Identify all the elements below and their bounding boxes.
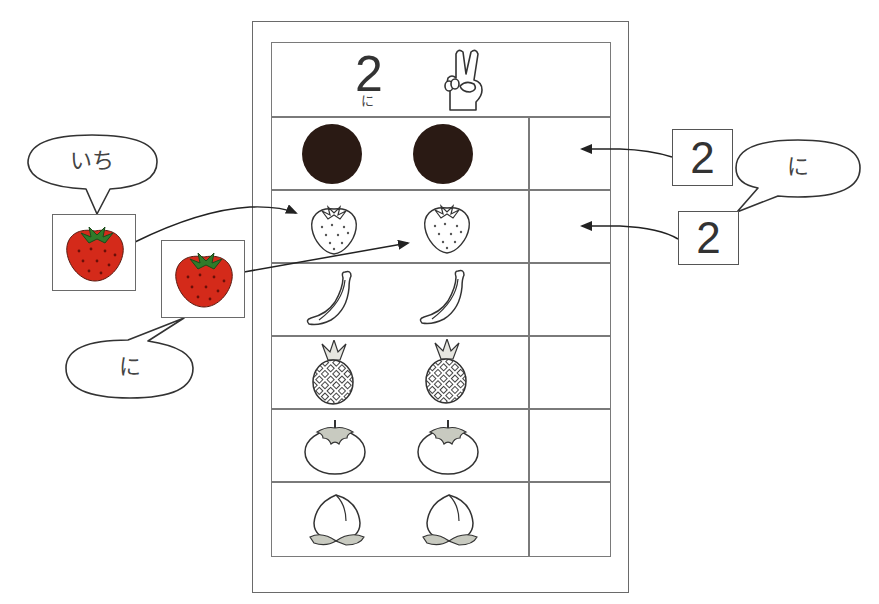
strawberry-icon (162, 241, 246, 319)
arrow-number-2 (582, 226, 678, 239)
number-card-2[interactable]: 2 (678, 211, 739, 265)
bubble-text-ni-left: に (100, 356, 160, 378)
speech-bubble-ichi (28, 135, 157, 214)
strawberry-card-1[interactable] (52, 214, 136, 291)
arrow-strawberry-1 (135, 207, 296, 242)
bubble-text-ichi: いち (62, 150, 122, 172)
strawberry-icon (53, 215, 137, 292)
annotation-lines (0, 0, 879, 604)
bubble-text-ni-right: に (768, 156, 828, 178)
arrow-strawberry-2 (244, 243, 408, 272)
strawberry-card-2[interactable] (161, 240, 245, 318)
number-card-1[interactable]: 2 (672, 129, 733, 186)
arrow-number-1 (582, 149, 672, 157)
